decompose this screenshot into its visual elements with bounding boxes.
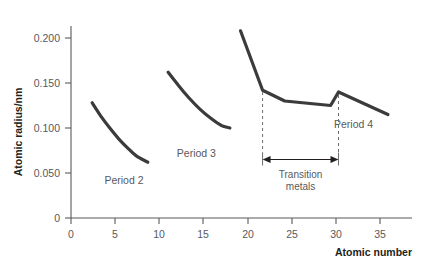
transition-arrow-head-right — [331, 156, 339, 163]
y-axis-title: Atomic radius/nm — [12, 88, 24, 177]
x-tick-label: 30 — [330, 228, 342, 240]
y-tick-label: 0.150 — [34, 77, 60, 89]
period-4-label: Period 4 — [334, 118, 373, 130]
x-tick-label: 5 — [112, 228, 118, 240]
chart-canvas: 0.200 0.150 0.100 0.050 0 0 5 10 15 20 2… — [0, 0, 427, 262]
transition-metals-annotation: Transition metals — [263, 92, 339, 192]
x-axis-ticks: 0 5 10 15 20 25 30 35 — [68, 218, 386, 240]
y-tick-label: 0 — [54, 212, 60, 224]
transition-metals-label-line1: Transition — [279, 169, 323, 180]
x-tick-label: 20 — [242, 228, 254, 240]
x-tick-label: 35 — [374, 228, 386, 240]
period-4-curve — [241, 31, 388, 115]
x-tick-label: 25 — [286, 228, 298, 240]
y-tick-label: 0.100 — [34, 122, 60, 134]
data-series-group — [92, 31, 388, 162]
x-tick-label: 0 — [68, 228, 74, 240]
atomic-radius-chart: 0.200 0.150 0.100 0.050 0 0 5 10 15 20 2… — [0, 0, 427, 262]
period-3-label: Period 3 — [177, 147, 216, 159]
period-2-curve — [92, 103, 148, 162]
period-2-label: Period 2 — [104, 174, 143, 186]
x-axis-title: Atomic number — [335, 246, 412, 258]
y-tick-label: 0.200 — [34, 32, 60, 44]
transition-arrow-head-left — [263, 156, 271, 163]
y-axis-ticks: 0.200 0.150 0.100 0.050 0 — [34, 32, 71, 224]
series-labels-group: Period 2 Period 3 Period 4 — [104, 118, 373, 186]
period-3-curve — [168, 72, 230, 128]
transition-metals-label-line2: metals — [286, 181, 315, 192]
x-tick-label: 10 — [153, 228, 165, 240]
x-tick-label: 15 — [197, 228, 209, 240]
y-tick-label: 0.050 — [34, 167, 60, 179]
